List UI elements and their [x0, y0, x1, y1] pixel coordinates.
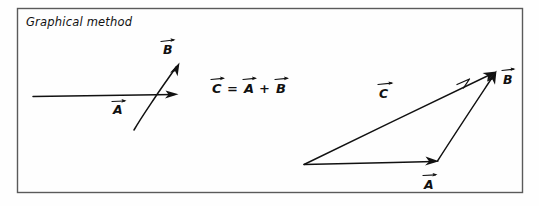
label-vector-a-triangle: A	[423, 177, 434, 192]
vector-b-left-group	[134, 63, 180, 131]
vector-a-triangle-shaft	[304, 162, 434, 165]
vector-b-triangle-group	[438, 71, 497, 162]
equation-operand-a: A	[243, 81, 254, 96]
label-vector-b-triangle: B	[503, 72, 513, 87]
label-vector-bars	[112, 38, 516, 176]
figure-frame	[18, 9, 523, 193]
label-vector-a-left: A	[112, 102, 123, 117]
equation-lhs: C	[212, 81, 222, 96]
equation-operand-b: B	[276, 81, 286, 96]
vector-b-left-shaft	[134, 67, 177, 131]
equation-plus: +	[259, 81, 270, 96]
vector-addition-sketch: Graphical method A B A B C C = A + B	[0, 0, 539, 206]
vector-a-left-shaft	[33, 95, 174, 97]
figure-canvas: Graphical method A B A B C C = A + B	[0, 0, 539, 206]
vector-a-triangle-group	[304, 157, 439, 166]
label-vector-b-left: B	[163, 42, 173, 57]
vector-c-triangle-group	[304, 72, 497, 165]
equation-equals: =	[227, 81, 238, 96]
vector-c-mid-arrowhead	[457, 79, 470, 88]
vector-b-triangle-shaft	[438, 76, 494, 162]
label-vector-c-triangle: C	[379, 86, 389, 101]
figure-title: Graphical method	[26, 15, 133, 29]
